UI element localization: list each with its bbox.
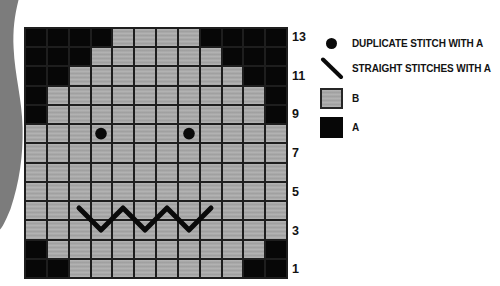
chart-cell-color-b xyxy=(223,125,243,142)
chart-cell-color-b xyxy=(244,144,264,161)
chart-cell-color-b xyxy=(201,183,221,200)
chart-cell-color-b xyxy=(70,106,90,123)
chart-cell-color-b xyxy=(48,125,68,142)
chart-cell-color-b xyxy=(135,260,155,277)
chart-cell-color-b xyxy=(113,106,133,123)
legend-label-straight-stitches: STRAIGHT STITCHES WITH A xyxy=(352,63,491,74)
chart-cell-color-b xyxy=(26,125,46,142)
legend-item-duplicate-stitch: DUPLICATE STITCH WITH A xyxy=(320,32,483,54)
chart-cell-color-b xyxy=(26,164,46,181)
chart-cell-color-b xyxy=(113,164,133,181)
chart-cell-color-b xyxy=(113,260,133,277)
chart-cell-color-b xyxy=(201,87,221,104)
chart-cell-color-b xyxy=(70,125,90,142)
chart-cell-color-b xyxy=(48,87,68,104)
chart-cell-color-b xyxy=(48,241,68,258)
row-number-3: 3 xyxy=(292,223,310,239)
legend-item-straight-stitches: STRAIGHT STITCHES WITH A xyxy=(320,57,491,80)
chart-cell-color-a xyxy=(223,48,243,65)
diagonal-line-icon xyxy=(320,57,344,80)
chart-cell-color-b xyxy=(223,241,243,258)
chart-cell-color-b xyxy=(48,221,68,238)
chart-cell-color-b xyxy=(70,183,90,200)
chart-cell-color-b xyxy=(135,221,155,238)
chart-cell-color-b xyxy=(179,87,199,104)
chart-cell-color-b xyxy=(157,29,177,46)
chart-cell-color-a xyxy=(26,260,46,277)
chart-cell-color-a xyxy=(26,29,46,46)
chart-cell-color-b xyxy=(26,221,46,238)
chart-cell-color-b xyxy=(223,221,243,238)
chart-cell-color-b xyxy=(179,48,199,65)
chart-cell-color-b xyxy=(244,241,264,258)
chart-cell-color-b xyxy=(266,221,286,238)
chart-cell-color-b xyxy=(26,144,46,161)
chart-cell-color-b xyxy=(135,106,155,123)
chart-cell-color-b xyxy=(113,221,133,238)
chart-cell-color-b xyxy=(70,202,90,219)
chart-cell-color-b xyxy=(201,67,221,84)
chart-cell-color-b xyxy=(157,106,177,123)
chart-cell-color-b xyxy=(201,125,221,142)
chart-cell-color-a xyxy=(223,29,243,46)
chart-cell-color-b xyxy=(179,241,199,258)
row-number-11: 11 xyxy=(292,68,310,84)
chart-cell-color-b xyxy=(48,144,68,161)
chart-cell-color-b xyxy=(266,125,286,142)
chart-cell-color-b xyxy=(179,260,199,277)
chart-cell-color-b xyxy=(179,67,199,84)
chart-cell-color-b xyxy=(201,260,221,277)
chart-cell-color-b xyxy=(48,183,68,200)
chart-cell-color-b xyxy=(92,241,112,258)
chart-cell-color-b xyxy=(157,48,177,65)
legend-label-color-b: B xyxy=(352,93,359,104)
legend-label-color-a: A xyxy=(352,122,359,133)
chart-cell-color-a xyxy=(26,87,46,104)
chart-cell-color-b xyxy=(70,260,90,277)
chart-cell-color-b xyxy=(201,241,221,258)
chart-cell-color-b xyxy=(92,260,112,277)
chart-cell-color-b xyxy=(244,106,264,123)
knitting-chart xyxy=(24,27,288,279)
chart-cell-color-b xyxy=(157,202,177,219)
chart-cell-color-b xyxy=(92,106,112,123)
chart-cell-color-b xyxy=(135,183,155,200)
chart-cell-color-b xyxy=(244,221,264,238)
chart-cell-color-b xyxy=(244,164,264,181)
chart-cell-color-a xyxy=(266,48,286,65)
chart-cell-color-b xyxy=(26,183,46,200)
chart-cell-color-b xyxy=(266,144,286,161)
chart-cell-color-a xyxy=(266,106,286,123)
row-number-7: 7 xyxy=(292,145,310,161)
legend-item-color-b: B xyxy=(320,88,359,109)
chart-grid xyxy=(24,27,288,279)
row-number-9: 9 xyxy=(292,106,310,122)
chart-cell-color-a xyxy=(26,106,46,123)
chart-cell-color-b xyxy=(92,183,112,200)
chart-cell-color-b xyxy=(135,48,155,65)
chart-cell-color-b xyxy=(179,106,199,123)
chart-cell-color-b xyxy=(179,164,199,181)
chart-cell-color-a xyxy=(48,48,68,65)
chart-cell-color-a xyxy=(266,87,286,104)
chart-cell-color-b xyxy=(266,164,286,181)
chart-cell-color-b xyxy=(201,202,221,219)
chart-cell-color-b xyxy=(92,125,112,142)
chart-cell-color-a xyxy=(244,67,264,84)
chart-cell-color-b xyxy=(179,221,199,238)
chart-cell-color-b xyxy=(135,241,155,258)
chart-cell-color-b xyxy=(157,144,177,161)
chart-cell-color-b xyxy=(113,202,133,219)
chart-cell-color-b xyxy=(70,241,90,258)
chart-cell-color-b xyxy=(113,144,133,161)
chart-cell-color-b xyxy=(135,164,155,181)
chart-cell-color-a xyxy=(70,48,90,65)
chart-cell-color-b xyxy=(48,164,68,181)
chart-cell-color-a xyxy=(70,29,90,46)
chart-cell-color-b xyxy=(179,183,199,200)
chart-cell-color-b xyxy=(223,260,243,277)
color-b-swatch-icon xyxy=(320,88,343,109)
chart-cell-color-a xyxy=(26,241,46,258)
chart-cell-color-b xyxy=(201,144,221,161)
chart-cell-color-b xyxy=(223,144,243,161)
